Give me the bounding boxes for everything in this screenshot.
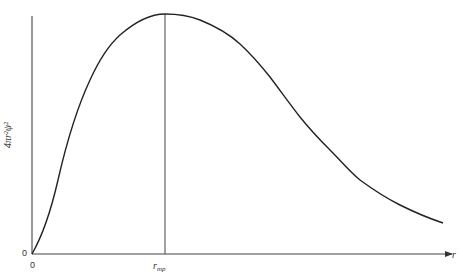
y-axis-label: 4πr²ψ² [3,115,13,155]
rmp-tick-label: rmp [153,261,165,273]
y-origin-label: 0 [22,249,27,258]
rmp-subscript: mp [157,265,166,273]
x-axis-label: r [452,250,456,260]
x-origin-label: 0 [30,261,35,270]
probability-curve [32,14,443,254]
chart-canvas [0,0,463,277]
